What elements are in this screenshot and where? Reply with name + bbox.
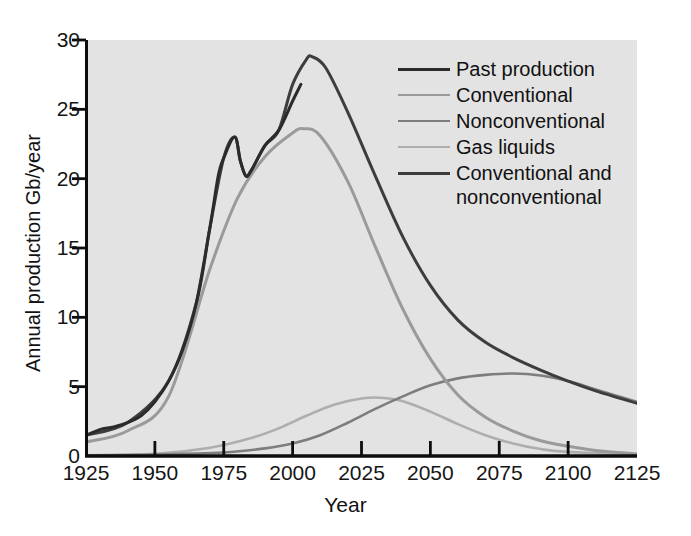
legend-item-label: Gas liquids	[452, 135, 555, 159]
chart-legend: Past productionConventionalNonconvention…	[396, 57, 686, 210]
legend-item: Nonconventional	[396, 109, 686, 134]
x-tick-label: 2050	[395, 462, 465, 484]
chart-figure: 302520151050 192519501975200020252050207…	[0, 0, 691, 536]
x-tick-label: 2075	[464, 462, 534, 484]
x-tick-label: 2025	[327, 462, 397, 484]
legend-item: Past production	[396, 57, 686, 82]
legend-item-label: Past production	[452, 57, 595, 81]
legend-item: Conventional	[396, 83, 686, 108]
legend-swatch-icon	[396, 57, 452, 82]
legend-item: Gas liquids	[396, 135, 686, 160]
y-axis-title: Annual production Gb/year	[23, 103, 43, 403]
x-tick-label: 2125	[602, 462, 672, 484]
legend-item-label: Nonconventional	[452, 109, 605, 133]
x-tick-label: 1950	[120, 462, 190, 484]
legend-item-label: Conventional	[452, 83, 573, 107]
x-tick-label: 2000	[258, 462, 328, 484]
legend-item: Conventional and nonconventional	[396, 161, 686, 209]
legend-swatch-icon	[396, 83, 452, 108]
legend-item-label: Conventional and nonconventional	[452, 161, 671, 209]
x-tick-label: 1925	[51, 462, 121, 484]
legend-swatch-icon	[396, 109, 452, 134]
legend-swatch-icon	[396, 135, 452, 160]
y-tick-label: 30	[34, 29, 80, 50]
legend-swatch-icon	[396, 161, 452, 186]
x-tick-label-group: 192519501975200020252050207521002125	[0, 462, 691, 492]
x-axis-title: Year	[0, 494, 691, 515]
x-tick-label: 1975	[189, 462, 259, 484]
x-tick-label: 2100	[533, 462, 603, 484]
